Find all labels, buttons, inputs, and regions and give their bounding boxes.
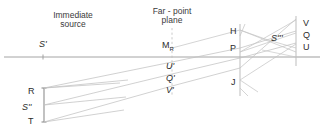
label-s-triple-prime: S''' <box>271 34 283 43</box>
label-h: H <box>230 27 237 36</box>
label-t: T <box>28 117 34 126</box>
label-v-prime: V' <box>166 86 174 95</box>
label-s-double-prime: S'' <box>22 103 31 112</box>
header-far-point-plane-line2: plane <box>136 16 208 25</box>
label-m-r-base: M <box>162 40 170 50</box>
ray-bundle-crossing <box>240 20 296 96</box>
label-m-r: MR <box>162 41 174 52</box>
label-r: R <box>28 87 35 96</box>
label-q-prime: Q' <box>166 74 175 83</box>
label-v: V <box>303 19 309 28</box>
label-p: P <box>230 44 236 53</box>
header-immediate-source-line2: source <box>33 20 113 29</box>
label-u: U <box>303 43 310 52</box>
header-immediate-source: Immediate source <box>33 11 113 28</box>
label-m-r-subscript: R <box>170 46 174 52</box>
diagram-canvas: Immediate source Far - point plane S' MR… <box>0 0 323 134</box>
label-j: J <box>231 78 236 87</box>
ray-bundle-right-tail <box>262 50 320 57</box>
label-u-prime: U' <box>166 62 174 71</box>
label-s-prime: S' <box>39 40 47 49</box>
label-q: Q <box>303 31 310 40</box>
header-far-point-plane: Far - point plane <box>136 7 208 24</box>
